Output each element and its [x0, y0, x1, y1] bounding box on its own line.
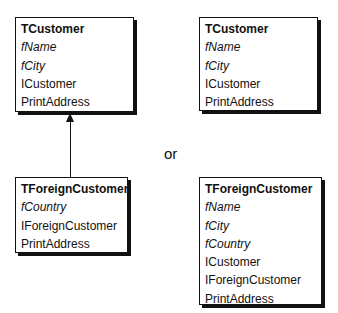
class-name: TCustomer — [205, 20, 312, 38]
or-separator: or — [164, 145, 177, 162]
arrowhead-icon — [66, 113, 74, 122]
class-field: fName — [205, 38, 312, 56]
class-field: fName — [205, 198, 316, 216]
class-member: PrintAddress — [205, 93, 312, 111]
class-field: fName — [21, 38, 128, 56]
class-box-tcustomer-left: TCustomer fName fCity ICustomer PrintAdd… — [15, 17, 134, 112]
class-member: ICustomer — [21, 75, 128, 93]
class-field: fCity — [205, 217, 316, 235]
class-box-tforeigncustomer-right: TForeignCustomer fName fCity fCountry IC… — [199, 177, 322, 305]
class-field: fCity — [205, 57, 312, 75]
class-member: IForeignCustomer — [205, 271, 316, 289]
class-field: fCountry — [205, 235, 316, 253]
class-member: ICustomer — [205, 75, 312, 93]
class-name: TCustomer — [21, 20, 128, 38]
class-member: ICustomer — [205, 253, 316, 271]
class-name: TForeignCustomer — [21, 180, 122, 198]
class-field: fCity — [21, 57, 128, 75]
class-member: PrintAddress — [21, 235, 122, 253]
class-box-tforeigncustomer-left: TForeignCustomer fCountry IForeignCustom… — [15, 177, 128, 253]
class-member: PrintAddress — [205, 290, 316, 308]
class-member: PrintAddress — [21, 93, 128, 111]
class-box-tcustomer-right: TCustomer fName fCity ICustomer PrintAdd… — [199, 17, 318, 111]
class-field: fCountry — [21, 198, 122, 216]
class-name: TForeignCustomer — [205, 180, 316, 198]
class-member: IForeignCustomer — [21, 217, 122, 235]
inheritance-arrow-line — [70, 114, 71, 178]
